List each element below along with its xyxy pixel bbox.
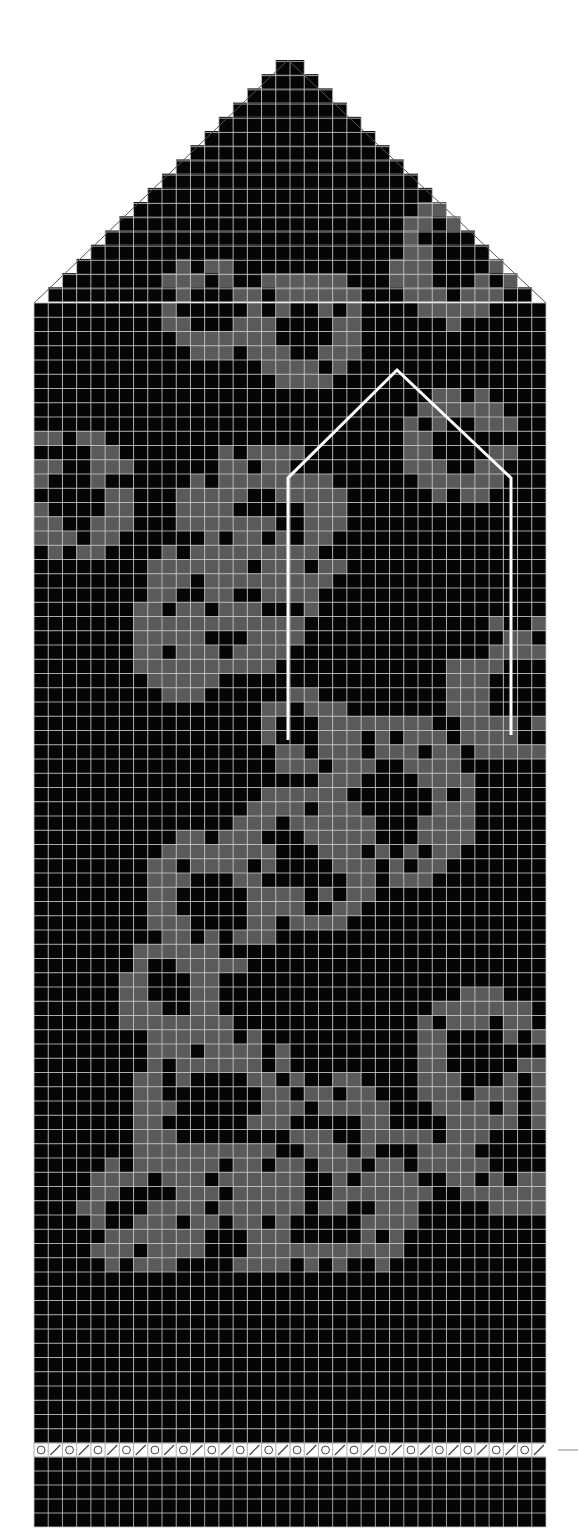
knitting-chart [0, 0, 579, 1538]
